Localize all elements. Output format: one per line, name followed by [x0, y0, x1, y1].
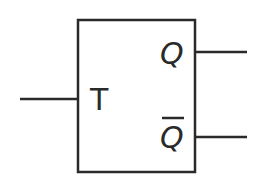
q-bar-output-label: Q [160, 120, 184, 155]
t-flip-flop-diagram: T Q Q [0, 0, 264, 185]
q-output-label: Q [160, 36, 184, 71]
t-input-label: T [89, 82, 109, 117]
